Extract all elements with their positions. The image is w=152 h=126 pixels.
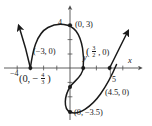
fraction-three-halves: 3 2 bbox=[92, 45, 96, 59]
point-x-intercept-mid bbox=[81, 66, 85, 70]
curve-branch-upper-right bbox=[110, 33, 127, 68]
label-x-intercept-left: (−3, 0) bbox=[33, 47, 56, 56]
label-y-intercept-mid: (0, − 4 3 ) bbox=[19, 72, 51, 86]
x-axis-label: x bbox=[128, 56, 132, 65]
label-y-intercept-mid-open: (0, − bbox=[19, 73, 38, 84]
x-tick-label-5: 5 bbox=[112, 76, 116, 84]
x-axis bbox=[4, 66, 140, 71]
label-y-intercept-mid-close: ) bbox=[47, 73, 50, 84]
curve-branch-upper-left bbox=[20, 28, 31, 68]
point-x-intercept-left bbox=[28, 66, 32, 70]
point-y-intercept-bottom bbox=[68, 110, 72, 114]
label-x-intercept-right: (4.5, 0) bbox=[105, 88, 129, 97]
label-y-intercept-top: (0, 3) bbox=[75, 20, 93, 29]
label-x-intercept-mid-open: ( bbox=[86, 46, 89, 57]
label-x-intercept-mid: ( 3 2 , 0) bbox=[86, 45, 109, 59]
x-tick-label-neg4: −4 bbox=[10, 70, 18, 78]
point-x-intercept-right bbox=[108, 66, 112, 70]
label-x-intercept-mid-rest: , 0) bbox=[98, 47, 109, 57]
fraction-denominator: 2 bbox=[92, 52, 96, 58]
point-y-intercept-top bbox=[68, 23, 72, 27]
graph-figure: y x 4 −4 5 (0, 3) (−3, 0) ( 3 2 , 0) (0,… bbox=[0, 0, 152, 126]
label-y-intercept-bottom: (0, −3.5) bbox=[74, 108, 103, 117]
fraction-four-thirds: 4 3 bbox=[41, 72, 45, 86]
point-y-intercept-mid bbox=[68, 85, 72, 89]
fraction-denominator: 3 bbox=[41, 79, 45, 85]
y-tick-label-4: 4 bbox=[58, 19, 62, 27]
